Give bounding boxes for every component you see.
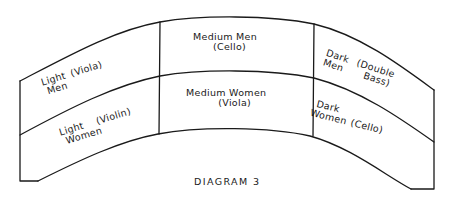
- cell-medium-men: Medium Men (Cello): [193, 32, 257, 52]
- divider-left: [159, 22, 160, 134]
- left-edge: [20, 81, 38, 181]
- diagram-3: Light (Viola) Men Medium Men (Cello) Dar…: [0, 0, 452, 201]
- cell-medium-women: Medium Women (Viola): [186, 88, 266, 108]
- diagram-caption: DIAGRAM 3: [194, 176, 260, 187]
- medium-women-line2: (Viola): [218, 97, 251, 108]
- divider-right: [313, 24, 314, 136]
- medium-men-line2: (Cello): [213, 41, 246, 52]
